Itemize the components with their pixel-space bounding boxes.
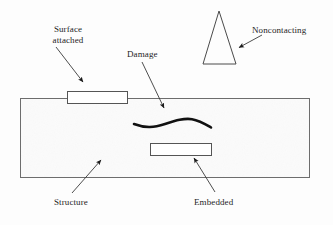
label-embedded: Embedded: [194, 197, 233, 208]
label-noncontacting: Noncontacting: [252, 25, 306, 36]
label-structure: Structure: [54, 197, 88, 208]
embedded-sensor: [151, 144, 212, 156]
label-surface-attached-line2: attached: [38, 35, 98, 46]
surface-attached-arrow: [56, 47, 83, 82]
label-damage: Damage: [127, 49, 158, 60]
diagram-canvas: Surface attached Damage Noncontacting St…: [0, 0, 333, 225]
label-surface-attached-line1: Surface: [38, 24, 98, 35]
surface-attached-sensor: [68, 92, 128, 104]
label-surface-attached: Surface attached: [38, 24, 98, 45]
noncontacting-arrow: [239, 35, 262, 48]
noncontacting-transducer-triangle: [203, 11, 236, 64]
structure-body-texture: [21, 99, 310, 178]
